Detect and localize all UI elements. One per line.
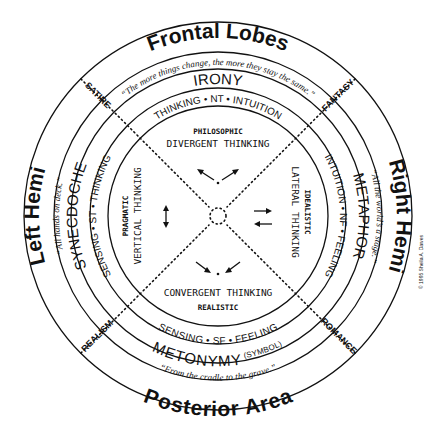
trope-right: METAPHOR bbox=[350, 171, 373, 261]
vertical-label: VERTICAL THINKING bbox=[132, 167, 143, 265]
divergent-label: DIVERGENT THINKING bbox=[167, 138, 270, 149]
quote-bottom: “From the cradle to the grave.” bbox=[159, 362, 278, 382]
lateral-sub: IDEALISTIC bbox=[303, 189, 312, 234]
converging-arrows-icon bbox=[196, 262, 240, 275]
diverging-arrows-icon bbox=[197, 169, 239, 184]
convergent-thinking-quadrant: CONVERGENT THINKING REALISTIC bbox=[164, 262, 273, 312]
region-label-right: Right Hemi bbox=[385, 156, 416, 276]
lateral-label: LATERAL THINKING bbox=[290, 166, 301, 258]
diagram-canvas: Frontal Lobes Posterior Area Left Hemi R… bbox=[0, 0, 439, 430]
region-label-bottom: Posterior Area bbox=[141, 384, 295, 421]
divergent-thinking-quadrant: PHILOSOPHIC DIVERGENT THINKING bbox=[167, 127, 270, 184]
region-label-top: Frontal Lobes bbox=[144, 19, 293, 55]
vertical-sub: PRAGMATIC bbox=[121, 196, 130, 237]
center-dotted-circle bbox=[210, 208, 226, 224]
genre-top-left: SATIRE bbox=[83, 80, 113, 110]
genre-bottom-left: REALISM bbox=[79, 318, 115, 354]
divergent-sub: PHILOSOPHIC bbox=[193, 127, 243, 136]
type-bottom: SENSING • SF • FEELING bbox=[157, 321, 280, 346]
lateral-arrows-icon bbox=[254, 208, 272, 227]
trope-top: IRONY bbox=[192, 70, 244, 89]
vertical-thinking-quadrant: PRAGMATIC VERTICAL THINKING bbox=[121, 167, 169, 265]
genre-bottom-right: ROMANCE bbox=[319, 316, 359, 356]
brain-literary-wheel-diagram: Frontal Lobes Posterior Area Left Hemi R… bbox=[0, 0, 439, 430]
genre-top-right: FANTASY bbox=[320, 77, 356, 113]
type-right: INTUITION • NF • FEELING bbox=[323, 152, 349, 280]
region-label-left: Left Hemi bbox=[20, 164, 49, 268]
vertical-arrows-icon bbox=[163, 205, 169, 228]
convergent-label: CONVERGENT THINKING bbox=[164, 287, 273, 298]
lateral-thinking-quadrant: LATERAL THINKING IDEALISTIC bbox=[254, 166, 312, 258]
type-left: SENSING • ST • THINKING bbox=[87, 153, 113, 280]
convergent-sub: REALISTIC bbox=[198, 303, 239, 312]
copyright-notice: © 1995 Sheila A. Dawes bbox=[418, 235, 424, 289]
trope-left: SYNECDOCHE bbox=[63, 160, 90, 273]
